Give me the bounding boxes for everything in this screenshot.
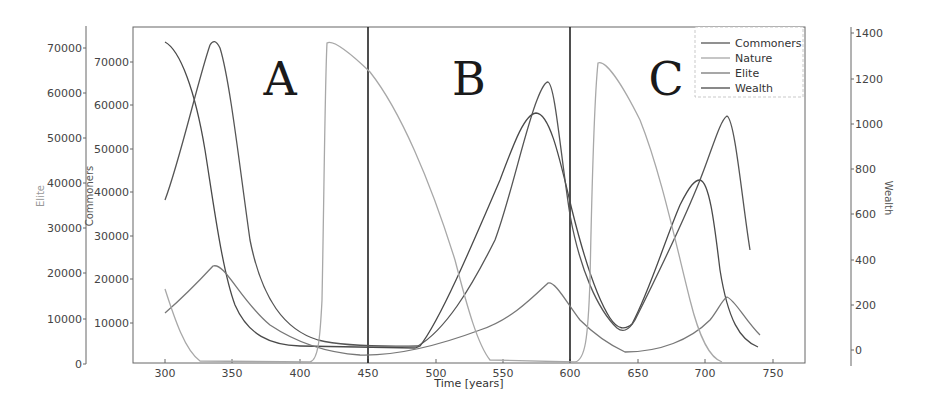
region-label-a: A — [262, 52, 297, 106]
legend-label-elite: Elite — [735, 67, 759, 80]
wealth-tick-label: 1400 — [855, 27, 883, 40]
x-tick-label: 300 — [155, 367, 176, 380]
commoners-tick-label: 40000 — [94, 186, 129, 199]
elite-tick-label: 40000 — [47, 177, 82, 190]
legend-label-wealth: Wealth — [735, 82, 773, 95]
x-axis-title: Time [years] — [433, 377, 503, 390]
x-tick-label: 650 — [628, 367, 649, 380]
commoners-tick-label: 10000 — [94, 317, 129, 330]
legend-label-nature: Nature — [735, 52, 773, 65]
commoners-tick-label: 70000 — [94, 56, 129, 69]
commoners-tick-label: 20000 — [94, 273, 129, 286]
commoners-tick-label: 50000 — [94, 143, 129, 156]
x-tick-label: 750 — [763, 367, 784, 380]
x-tick-label: 600 — [560, 367, 581, 380]
commoners-axis: 10000 20000 30000 40000 50000 60000 7000… — [94, 56, 133, 330]
region-label-b: B — [452, 52, 486, 106]
wealth-tick-label: 1200 — [855, 73, 883, 86]
wealth-tick-label: 0 — [855, 344, 862, 357]
commoners-tick-label: 60000 — [94, 99, 129, 112]
wealth-tick-label: 800 — [855, 163, 876, 176]
elite-tick-label: 50000 — [47, 132, 82, 145]
wealth-axis-title: Wealth — [883, 181, 894, 216]
x-tick-label: 350 — [222, 367, 243, 380]
commoners-tick-label: 30000 — [94, 230, 129, 243]
x-tick-label: 700 — [695, 367, 716, 380]
wealth-tick-label: 400 — [855, 254, 876, 267]
legend: Commoners Nature Elite Wealth — [695, 27, 803, 97]
series-line-elite — [165, 266, 760, 355]
elite-axis-title: Elite — [35, 185, 46, 207]
elite-tick-label: 0 — [75, 358, 82, 371]
elite-axis: 0 10000 20000 30000 40000 50000 60000 70… — [35, 26, 86, 371]
x-axis: 300 350 400 450 500 550 600 650 700 750 … — [155, 359, 784, 390]
wealth-tick-label: 600 — [855, 208, 876, 221]
wealth-tick-label: 1000 — [855, 118, 883, 131]
elite-tick-label: 10000 — [47, 313, 82, 326]
chart: 0 10000 20000 30000 40000 50000 60000 70… — [0, 0, 931, 406]
elite-tick-label: 30000 — [47, 222, 82, 235]
elite-tick-label: 60000 — [47, 87, 82, 100]
wealth-axis: 0 200 400 600 800 1000 1200 1400 Wealth — [851, 27, 894, 366]
x-tick-label: 450 — [358, 367, 379, 380]
x-tick-label: 400 — [290, 367, 311, 380]
wealth-tick-label: 200 — [855, 299, 876, 312]
region-label-c: C — [648, 52, 683, 106]
elite-tick-label: 20000 — [47, 267, 82, 280]
legend-label-commoners: Commoners — [735, 37, 802, 50]
elite-tick-label: 70000 — [47, 42, 82, 55]
